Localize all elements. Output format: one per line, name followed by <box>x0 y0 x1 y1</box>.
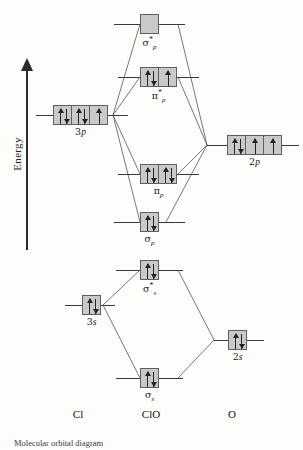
axis-label-right-atom: O <box>212 408 252 420</box>
orbital-box <box>140 260 159 280</box>
orbital-box-row <box>53 105 108 125</box>
level-connector-stub-right <box>159 378 183 379</box>
o2s-to-sigmas-star <box>178 270 214 340</box>
orbital-label-cl-3p: 3p <box>53 126 108 137</box>
electron-spin-up-icon <box>99 109 100 124</box>
cl3p-to-sigmap <box>113 115 140 222</box>
electron-spin-up-icon <box>147 216 148 231</box>
level-connector-stub-left <box>114 24 140 25</box>
electron-spin-down-icon <box>66 109 67 124</box>
orbital-box-row <box>228 330 247 350</box>
level-connector-stub-right <box>282 145 299 146</box>
level-connector-stub-left <box>116 270 140 271</box>
orbital-level-o-2p: 2p <box>227 135 282 155</box>
orbital-box-row <box>140 368 159 388</box>
orbital-box <box>82 295 101 315</box>
orbital-label-pi-p-bonding: πp <box>140 185 177 199</box>
electron-spin-down-icon <box>153 216 154 231</box>
electron-spin-down-icon <box>240 139 241 154</box>
orbital-box <box>263 135 282 155</box>
electron-spin-down-icon <box>171 168 172 183</box>
electron-spin-up-icon <box>147 264 148 279</box>
orbital-box-row <box>227 135 282 155</box>
orbital-level-pi-p-antibonding: π*p <box>140 67 177 87</box>
axis-label-left-atom: Cl <box>58 408 98 420</box>
electron-spin-down-icon <box>241 334 242 349</box>
electron-spin-up-icon <box>273 139 274 154</box>
cl3s-to-sigmas <box>103 305 140 378</box>
orbital-label-sigma-p-antibonding: σ*p <box>140 35 159 51</box>
level-connector-stub-left <box>65 305 82 306</box>
orbital-box <box>140 14 159 34</box>
orbital-box-row <box>140 14 159 34</box>
orbital-level-pi-p-bonding: πp <box>140 164 177 184</box>
level-connector-stub-right <box>159 270 183 271</box>
orbital-label-sigma-p-bonding: σp <box>140 233 159 247</box>
level-connector-stub-left <box>116 378 140 379</box>
electron-spin-down-icon <box>153 168 154 183</box>
orbital-label-pi-p-antibonding: π*p <box>140 88 177 104</box>
energy-axis-line <box>26 68 28 250</box>
orbital-level-o-2s: 2s <box>228 330 247 350</box>
level-connector-stub-right <box>177 77 199 78</box>
level-connector-stub-left <box>214 340 228 341</box>
orbital-box-row <box>140 67 177 87</box>
figure-caption: Molecular orbital diagram <box>14 438 294 448</box>
electron-spin-up-icon <box>147 168 148 183</box>
orbital-box-row <box>140 164 177 184</box>
orbital-box <box>140 164 159 184</box>
orbital-box <box>158 164 177 184</box>
energy-axis-label: Energy <box>11 124 23 184</box>
orbital-box <box>140 368 159 388</box>
electron-spin-down-icon <box>95 299 96 314</box>
electron-spin-up-icon <box>60 109 61 124</box>
orbital-box <box>140 67 159 87</box>
orbital-label-sigma-s-bonding: σs <box>140 389 159 403</box>
level-connector-stub-left <box>118 77 140 78</box>
orbital-box <box>228 330 247 350</box>
o2p-to-pip-star <box>178 77 207 145</box>
level-connector-stub-left <box>114 222 140 223</box>
electron-spin-down-icon <box>84 109 85 124</box>
level-connector-stub-right <box>159 222 185 223</box>
orbital-box <box>53 105 72 125</box>
electron-spin-up-icon <box>165 168 166 183</box>
orbital-level-sigma-p-bonding: σp <box>140 212 159 232</box>
cl3p-to-sigmap-star <box>113 24 140 115</box>
orbital-label-sigma-s-antibonding: σ*s <box>140 281 159 297</box>
orbital-box <box>158 67 177 87</box>
electron-spin-down-icon <box>153 372 154 387</box>
level-connector-stub-left <box>207 145 227 146</box>
orbital-box <box>245 135 264 155</box>
orbital-level-sigma-s-antibonding: σ*s <box>140 260 159 280</box>
orbital-label-cl-3s: 3s <box>82 316 101 327</box>
o2s-to-sigmas <box>178 340 214 378</box>
electron-spin-up-icon <box>89 299 90 314</box>
orbital-label-o-2p: 2p <box>227 156 282 167</box>
electron-spin-up-icon <box>235 334 236 349</box>
orbital-box-row <box>82 295 101 315</box>
orbital-level-cl-3p: 3p <box>53 105 108 125</box>
orbital-level-sigma-p-antibonding: σ*p <box>140 14 159 34</box>
level-connector-stub-right <box>101 305 115 306</box>
electron-spin-up-icon <box>255 139 256 154</box>
cl3s-to-sigmas-star <box>103 270 140 305</box>
level-connector-stub-left <box>118 174 140 175</box>
orbital-box <box>227 135 246 155</box>
orbital-box <box>89 105 108 125</box>
electron-spin-up-icon <box>147 71 148 86</box>
level-connector-stub-left <box>36 115 53 116</box>
level-connector-stub-right <box>247 340 264 341</box>
cl3p-to-pip-star <box>113 77 140 115</box>
electron-spin-up-icon <box>234 139 235 154</box>
electron-spin-up-icon <box>168 71 169 86</box>
electron-spin-up-icon <box>78 109 79 124</box>
orbital-level-sigma-s-bonding: σs <box>140 368 159 388</box>
orbital-box-row <box>140 212 159 232</box>
mo-diagram-figure: Energy σ*pπ*pπpσpσ*sσs3p3s2p2s ClClOO Mo… <box>0 0 303 450</box>
electron-spin-down-icon <box>153 71 154 86</box>
level-connector-stub-right <box>159 24 185 25</box>
orbital-box <box>71 105 90 125</box>
orbital-box <box>140 212 159 232</box>
level-connector-stub-right <box>177 174 199 175</box>
